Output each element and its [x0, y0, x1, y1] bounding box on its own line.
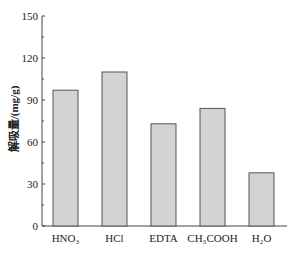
chart-canvas: 0306090120150HNO₃HClEDTACH₃COOHH₂O	[0, 0, 298, 258]
y-tick-label: 150	[22, 10, 39, 22]
x-tick-label: CH₃COOH	[187, 232, 237, 244]
y-tick-label: 90	[27, 94, 39, 106]
x-tick-label: HCl	[105, 232, 123, 244]
x-tick-label: EDTA	[149, 232, 178, 244]
x-tick-label: H₂O	[252, 232, 272, 244]
y-tick-label: 120	[22, 52, 39, 64]
y-tick-label: 0	[33, 220, 39, 232]
y-tick-label: 60	[27, 136, 39, 148]
bar-hcl	[102, 72, 127, 226]
bar-edta	[151, 124, 176, 226]
bar-chart: 0306090120150HNO₃HClEDTACH₃COOHH₂O 解吸量/(…	[0, 0, 298, 258]
bar-h2o	[249, 173, 274, 226]
x-tick-label: HNO₃	[52, 232, 80, 244]
y-tick-label: 30	[27, 178, 39, 190]
bar-hno3	[53, 90, 78, 226]
y-axis-label: 解吸量/(mg/g)	[5, 69, 19, 169]
bar-ch3cooh	[200, 108, 225, 226]
